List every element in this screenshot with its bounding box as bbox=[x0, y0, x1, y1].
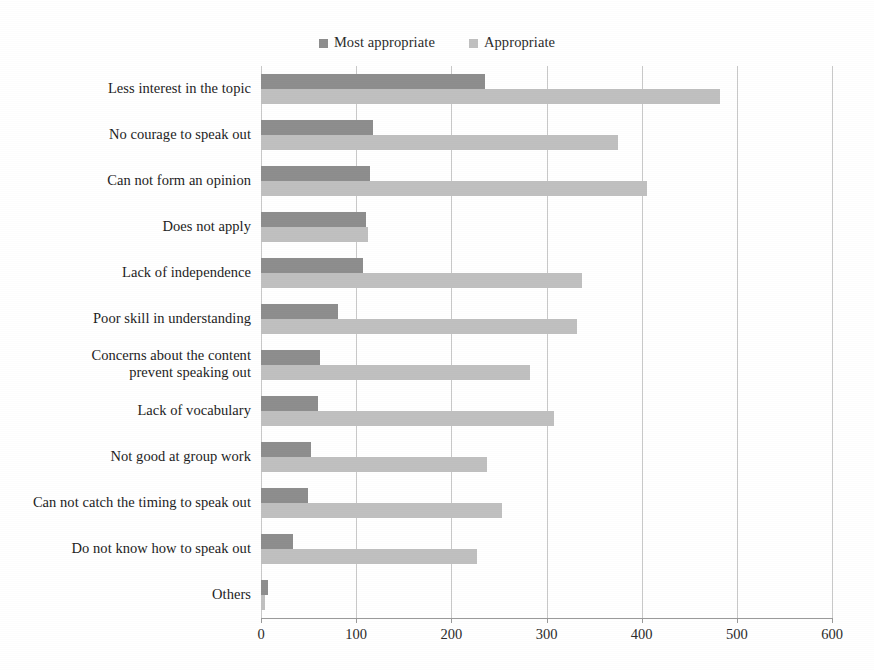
bar-appropriate bbox=[261, 365, 530, 380]
bar-most-appropriate bbox=[261, 396, 318, 411]
bar-appropriate bbox=[261, 89, 720, 104]
bar-most-appropriate bbox=[261, 304, 338, 319]
category-label: Less interest in the topic bbox=[108, 80, 251, 97]
bar-appropriate bbox=[261, 503, 502, 518]
bar-appropriate bbox=[261, 319, 577, 334]
bar-appropriate bbox=[261, 135, 618, 150]
bar-most-appropriate bbox=[261, 212, 366, 227]
x-tick-label: 0 bbox=[257, 626, 264, 643]
bar-appropriate bbox=[261, 411, 554, 426]
tick-mark bbox=[737, 618, 738, 623]
bar-appropriate bbox=[261, 227, 368, 242]
bar-most-appropriate bbox=[261, 350, 320, 365]
gridline bbox=[737, 66, 738, 618]
tick-mark bbox=[547, 618, 548, 623]
bar-appropriate bbox=[261, 595, 265, 610]
tick-mark bbox=[451, 618, 452, 623]
x-tick-label: 200 bbox=[440, 626, 462, 643]
category-label: Do not know how to speak out bbox=[72, 540, 251, 557]
bar-appropriate bbox=[261, 273, 582, 288]
category-label: Lack of independence bbox=[122, 264, 251, 281]
category-label: Lack of vocabulary bbox=[137, 402, 251, 419]
legend-entry-most-appropriate: Most appropriate bbox=[319, 34, 435, 51]
x-tick-label: 400 bbox=[631, 626, 653, 643]
x-tick-label: 100 bbox=[345, 626, 367, 643]
bar-most-appropriate bbox=[261, 442, 311, 457]
chart-legend: Most appropriate Appropriate bbox=[0, 34, 874, 51]
x-tick-label: 300 bbox=[536, 626, 558, 643]
bar-most-appropriate bbox=[261, 580, 268, 595]
category-label: Poor skill in understanding bbox=[93, 310, 251, 327]
bar-most-appropriate bbox=[261, 488, 308, 503]
category-label: Others bbox=[212, 586, 251, 603]
legend-label-appropriate: Appropriate bbox=[484, 34, 555, 51]
gridline bbox=[642, 66, 643, 618]
tick-mark bbox=[261, 618, 262, 623]
bar-most-appropriate bbox=[261, 120, 373, 135]
gridline bbox=[832, 66, 833, 618]
bar-most-appropriate bbox=[261, 258, 363, 273]
x-tick-label: 600 bbox=[821, 626, 843, 643]
legend-swatch-most-appropriate bbox=[319, 39, 328, 48]
tick-mark bbox=[356, 618, 357, 623]
bar-most-appropriate bbox=[261, 534, 293, 549]
category-label: Can not catch the timing to speak out bbox=[33, 494, 251, 511]
legend-entry-appropriate: Appropriate bbox=[469, 34, 555, 51]
category-label: Can not form an opinion bbox=[107, 172, 251, 189]
category-label: No courage to speak out bbox=[109, 126, 251, 143]
bar-appropriate bbox=[261, 549, 477, 564]
bar-most-appropriate bbox=[261, 74, 485, 89]
legend-label-most-appropriate: Most appropriate bbox=[334, 34, 435, 51]
legend-swatch-appropriate bbox=[469, 39, 478, 48]
bar-appropriate bbox=[261, 181, 647, 196]
category-label: Concerns about the content prevent speak… bbox=[91, 347, 251, 381]
category-label: Not good at group work bbox=[111, 448, 251, 465]
bar-most-appropriate bbox=[261, 166, 370, 181]
tick-mark bbox=[642, 618, 643, 623]
bar-chart: Most appropriate Appropriate 01002003004… bbox=[0, 0, 874, 670]
bar-appropriate bbox=[261, 457, 487, 472]
tick-mark bbox=[832, 618, 833, 623]
x-tick-label: 500 bbox=[726, 626, 748, 643]
category-label: Does not apply bbox=[163, 218, 252, 235]
